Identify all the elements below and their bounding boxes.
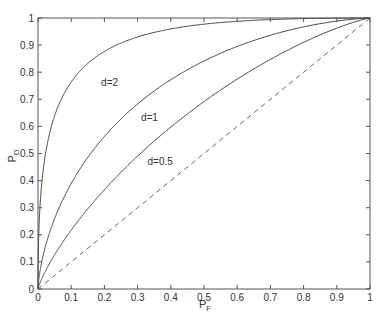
x-tick-label: 0.3 xyxy=(131,292,145,303)
x-tick-label: 0.4 xyxy=(164,292,178,303)
x-tick-label: 0.2 xyxy=(97,292,111,303)
y-tick-label: 0 xyxy=(28,284,34,295)
y-tick-label: 0.3 xyxy=(20,202,34,213)
y-tick-label: 0.6 xyxy=(20,121,34,132)
y-tick-label: 0.8 xyxy=(20,67,34,78)
curve-label: d=2 xyxy=(101,77,118,88)
curve-label: d=1 xyxy=(141,112,158,123)
curve-labels: d=2d=1d=0.5 xyxy=(101,77,173,167)
roc-chart: 00.10.20.30.40.50.60.70.80.9100.10.20.30… xyxy=(0,0,387,320)
curves xyxy=(38,18,370,289)
x-tick-label: 0.7 xyxy=(263,292,277,303)
x-tick-label: 0.6 xyxy=(230,292,244,303)
y-tick-label: 0.4 xyxy=(20,175,34,186)
y-tick-label: 0.7 xyxy=(20,94,34,105)
y-axis-label: PD xyxy=(6,149,21,162)
x-tick-label: 0 xyxy=(35,292,41,303)
y-tick-label: 0.5 xyxy=(20,148,34,159)
y-tick-label: 1 xyxy=(28,13,34,24)
tick-labels: 00.10.20.30.40.50.60.70.80.9100.10.20.30… xyxy=(20,13,373,304)
curve-label: d=0.5 xyxy=(148,156,174,167)
curve-chance xyxy=(38,18,370,289)
x-tick-label: 0.9 xyxy=(330,292,344,303)
y-tick-label: 0.9 xyxy=(20,40,34,51)
x-tick-label: 0.8 xyxy=(297,292,311,303)
y-tick-label: 0.2 xyxy=(20,229,34,240)
x-tick-label: 0.1 xyxy=(64,292,78,303)
y-tick-label: 0.1 xyxy=(20,256,34,267)
x-tick-label: 1 xyxy=(367,292,373,303)
